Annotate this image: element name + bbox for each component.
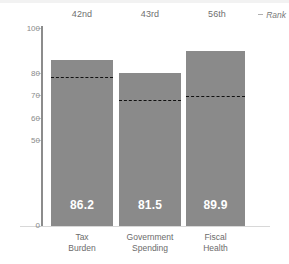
rank-label-fiscal-health: 56th [186, 8, 248, 20]
y-axis-line [41, 26, 43, 226]
y-tick-label-0: 0 [6, 221, 40, 230]
rank-legend: Rank [258, 10, 286, 21]
bar-value-government-spending: 81.5 [119, 198, 181, 212]
category-label-line-2: Burden [51, 243, 113, 254]
bar-value-fiscal-health: 89.9 [186, 198, 245, 212]
y-tick-label-80: 80 [6, 69, 40, 78]
y-tick-label-50: 50 [6, 136, 40, 145]
category-label-line-1: Fiscal [186, 232, 245, 243]
category-label-government-spending: Government Spending [113, 232, 187, 253]
rank-legend-label: Rank [266, 10, 286, 20]
header-divider [0, 0, 289, 3]
category-label-tax-burden: Tax Burden [51, 232, 113, 253]
bar-value-tax-burden: 86.2 [51, 198, 113, 212]
y-tick-label-100: 100 [6, 24, 40, 33]
rank-label-tax-burden: 42nd [51, 8, 113, 20]
y-tick-label-60: 60 [6, 114, 40, 123]
reference-line-government-spending [119, 100, 181, 101]
category-label-line-1: Tax [51, 232, 113, 243]
category-label-fiscal-health: Fiscal Health [186, 232, 245, 253]
rank-row: 42nd 43rd 56th [0, 8, 289, 24]
category-label-line-2: Health [186, 243, 245, 254]
y-tick-label-70: 70 [6, 91, 40, 100]
rank-label-government-spending: 43rd [119, 8, 181, 20]
category-label-line-1: Government [113, 232, 187, 243]
x-axis-baseline [20, 226, 270, 227]
category-label-line-2: Spending [113, 243, 187, 254]
rank-legend-dash-icon [258, 14, 263, 15]
reference-line-tax-burden [51, 77, 113, 78]
reference-line-fiscal-health [186, 96, 245, 97]
bar-chart: 42nd 43rd 56th Rank 100 80 70 60 50 0 86… [0, 0, 289, 264]
